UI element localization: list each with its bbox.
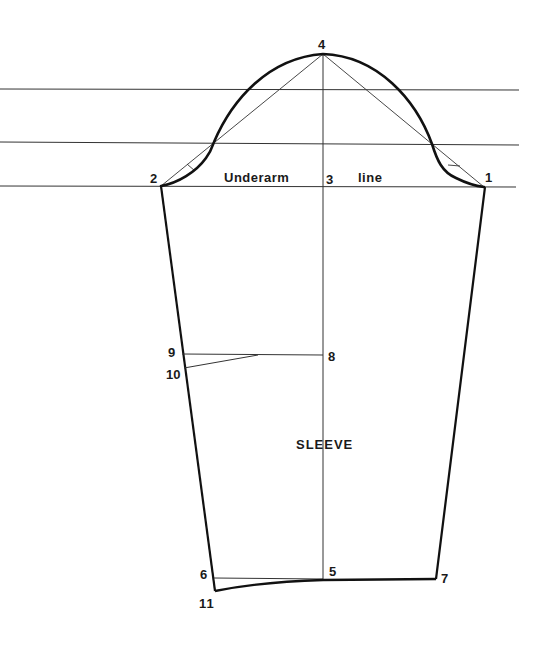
- point-label-9: 9: [168, 346, 175, 359]
- underarm-label: Underarm: [224, 171, 289, 184]
- point-label-6: 6: [200, 568, 207, 581]
- diagonal-2-4: [161, 54, 323, 186]
- point-label-5: 5: [329, 565, 336, 578]
- sleeve-side-right: [436, 187, 485, 579]
- elbow-dart-10: [184, 355, 258, 368]
- sleeve-pattern-diagram: [0, 0, 551, 646]
- underarm-line: [0, 186, 516, 187]
- diagonal-4-1: [323, 54, 484, 187]
- sleeve-title: SLEEVE: [296, 438, 353, 451]
- point-label-7: 7: [441, 572, 448, 585]
- point-label-4: 4: [318, 38, 325, 51]
- wrist-curve-11-7: [215, 579, 436, 591]
- guide-line-middle: [0, 142, 519, 145]
- point-label-3: 3: [326, 173, 333, 186]
- elbow-line-9-8: [182, 354, 323, 355]
- point-label-2: 2: [150, 172, 157, 185]
- line-label: line: [358, 171, 382, 184]
- point-label-11: 11: [199, 597, 215, 610]
- point-label-1: 1: [485, 171, 492, 184]
- guide-line-top: [0, 89, 519, 90]
- wrist-line-6-5: [214, 578, 323, 579]
- sleeve-side-left: [161, 186, 215, 591]
- point-label-10: 10: [166, 368, 180, 381]
- point-label-8: 8: [328, 350, 335, 363]
